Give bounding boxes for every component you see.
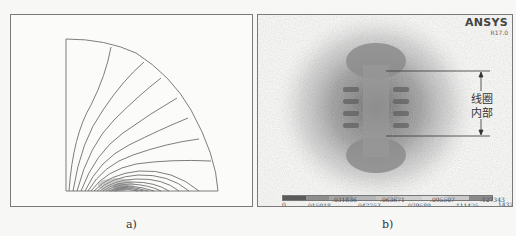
label-line-1: 线圈 [471, 93, 493, 107]
legend-tick: .047753 [356, 202, 381, 207]
panel-a-flux-lines [10, 14, 253, 207]
legend-tick: .063671 [380, 196, 405, 203]
caption-a: a) [126, 218, 137, 231]
flux-line-plot [11, 15, 251, 205]
legend-tick: .031836 [332, 196, 357, 203]
legend-tick: .111425 [454, 202, 479, 207]
legend-tick: .095507 [430, 196, 455, 203]
legend-tick: 0 [282, 201, 286, 207]
label-line-2: 内部 [471, 107, 493, 121]
legend-tick: .015918 [306, 202, 331, 207]
legend-swatch [283, 196, 306, 200]
coil-interior-label: 线圈 内部 [471, 93, 493, 121]
caption-b: b) [382, 218, 393, 231]
panel-b-field-plot: ANSYS R17.0 线圈 内部 0 .031836 .063671 .095… [257, 14, 513, 207]
legend-tick: .079589 [406, 202, 431, 207]
ansys-version: R17.0 [465, 29, 508, 36]
legend-swatch [306, 196, 329, 200]
legend-tick: .14326 [496, 201, 513, 207]
ansys-logo: ANSYS R17.0 [465, 17, 508, 36]
ansys-brand: ANSYS [465, 17, 508, 29]
